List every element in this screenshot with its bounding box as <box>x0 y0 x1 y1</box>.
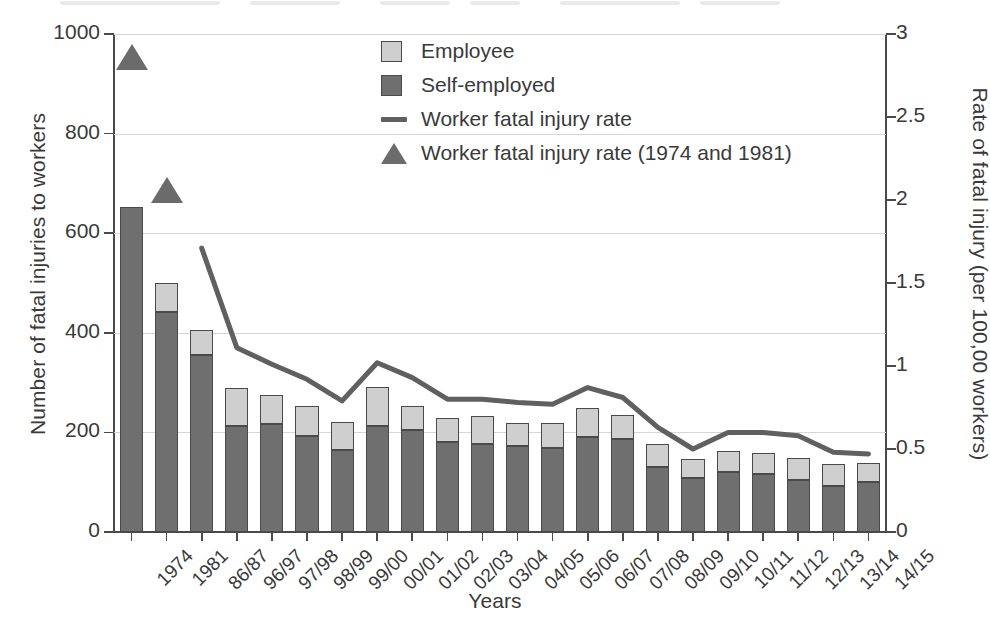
x-axis-tick-label: 06/07 <box>610 545 659 594</box>
bar-02-03[interactable] <box>436 418 459 532</box>
bar-99-00[interactable] <box>331 422 354 532</box>
y-axis-right-tick-label: 1.5 <box>896 269 956 293</box>
bar-97-98[interactable] <box>260 395 283 532</box>
bar-segment-employee <box>260 395 283 424</box>
bar-segment-self-employed <box>576 437 599 532</box>
bar-segment-self-employed <box>401 430 424 532</box>
x-axis-tick-label: 08/09 <box>680 545 729 594</box>
bar-segment-employee <box>155 283 178 313</box>
bar-segment-employee <box>366 387 389 426</box>
square-dark-icon <box>381 75 413 96</box>
bar-segment-employee <box>401 406 424 431</box>
bar-segment-employee <box>646 444 669 467</box>
bar-03-04[interactable] <box>471 416 494 532</box>
x-axis-tick-label: 05/06 <box>575 545 624 594</box>
bar-14-15[interactable] <box>857 463 880 532</box>
x-axis-tickmark <box>447 532 449 541</box>
x-axis-tick-label: 04/05 <box>539 545 588 594</box>
bar-segment-self-employed <box>225 426 248 532</box>
x-axis-tick-label: 96/97 <box>259 545 308 594</box>
y-axis-right-tickmark <box>886 199 896 201</box>
x-axis-tickmark <box>552 532 554 541</box>
x-axis-tickmark <box>236 532 238 541</box>
x-axis-tick-label: 98/99 <box>329 545 378 594</box>
x-axis-tickmark <box>376 532 378 541</box>
bar-09-10[interactable] <box>681 459 704 532</box>
bar-12-13[interactable] <box>787 458 810 532</box>
bar-1981[interactable] <box>155 283 178 532</box>
bar-segment-self-employed <box>331 450 354 532</box>
x-axis-tick-label: 1981 <box>187 545 232 590</box>
y-axis-left-tick-label: 200 <box>0 418 100 442</box>
bar-segment-self-employed <box>646 467 669 532</box>
x-axis-tickmark <box>271 532 273 541</box>
bar-08-09[interactable] <box>646 444 669 532</box>
chart-legend: Employee Self-employed Worker fatal inju… <box>381 36 792 172</box>
bar-04-05[interactable] <box>506 423 529 532</box>
bar-00-01[interactable] <box>366 387 389 532</box>
legend-item-rate-triangle[interactable]: Worker fatal injury rate (1974 and 1981) <box>381 138 792 168</box>
bar-segment-self-employed <box>822 486 845 532</box>
bar-96-97[interactable] <box>225 388 248 532</box>
line-icon <box>381 117 413 122</box>
bar-segment-self-employed <box>752 474 775 532</box>
bar-segment-self-employed <box>471 444 494 532</box>
y-axis-right-tick-label: 0.5 <box>896 435 956 459</box>
legend-item-rate-line[interactable]: Worker fatal injury rate <box>381 104 792 134</box>
bar-98-99[interactable] <box>295 406 318 532</box>
bar-06-07[interactable] <box>576 408 599 532</box>
y-axis-right-tickmark <box>886 365 896 367</box>
x-axis-title: Years <box>0 589 990 613</box>
legend-label: Self-employed <box>421 73 555 97</box>
bar-07-08[interactable] <box>611 415 634 532</box>
x-axis-tick-label: 00/01 <box>399 545 448 594</box>
x-axis-tickmark <box>797 532 799 541</box>
x-axis-tick-label: 86/87 <box>224 545 273 594</box>
legend-item-self-employed[interactable]: Self-employed <box>381 70 792 100</box>
y-axis-right-tickmark <box>886 33 896 35</box>
bar-segment-employee <box>717 451 740 472</box>
x-axis-tickmark <box>201 532 203 541</box>
bar-1974[interactable] <box>120 207 143 532</box>
x-axis-tickmark <box>306 532 308 541</box>
bar-86-87[interactable] <box>190 330 213 532</box>
bar-13-14[interactable] <box>822 464 845 532</box>
x-axis-tick-label: 14/15 <box>890 545 939 594</box>
bar-segment-self-employed <box>787 480 810 532</box>
bar-segment-employee <box>331 422 354 449</box>
x-axis-tick-label: 10/11 <box>750 545 798 593</box>
x-axis-tickmark <box>587 532 589 541</box>
legend-label: Employee <box>421 39 514 63</box>
bar-01-02[interactable] <box>401 406 424 532</box>
bar-segment-self-employed <box>366 426 389 532</box>
bar-segment-employee <box>576 408 599 437</box>
y-axis-right-tickmark <box>886 282 896 284</box>
bar-segment-self-employed <box>260 424 283 532</box>
x-axis-tickmark <box>727 532 729 541</box>
x-axis-tick-label: 03/04 <box>504 545 553 594</box>
bar-segment-self-employed <box>541 448 564 532</box>
bar-segment-employee <box>752 453 775 474</box>
x-axis-tick-label: 07/08 <box>645 545 694 594</box>
triangle-marker-1974 <box>116 44 148 70</box>
bar-segment-employee <box>611 415 634 439</box>
cropped-title-artifact <box>0 0 990 7</box>
y-axis-right-tick-label: 2.5 <box>896 103 956 127</box>
x-axis-tickmark <box>482 532 484 541</box>
y-axis-right-tick-label: 3 <box>896 20 956 44</box>
x-axis-tickmark <box>868 532 870 541</box>
y-axis-left-tick-label: 0 <box>0 518 100 542</box>
bar-05-06[interactable] <box>541 423 564 532</box>
y-axis-left-tickmark <box>104 332 114 334</box>
bar-segment-self-employed <box>436 442 459 532</box>
bar-10-11[interactable] <box>717 451 740 532</box>
bar-11-12[interactable] <box>752 453 775 532</box>
y-axis-right-tickmark <box>886 531 896 533</box>
chart-figure: Number of fatal injuries to workers Rate… <box>0 0 990 625</box>
legend-item-employee[interactable]: Employee <box>381 36 792 66</box>
y-axis-right-tickmark <box>886 448 896 450</box>
x-axis-tick-label: 99/00 <box>364 545 413 594</box>
bar-segment-self-employed <box>857 482 880 532</box>
y-axis-left-tickmark <box>104 232 114 234</box>
y-axis-left-tick-label: 800 <box>0 120 100 144</box>
